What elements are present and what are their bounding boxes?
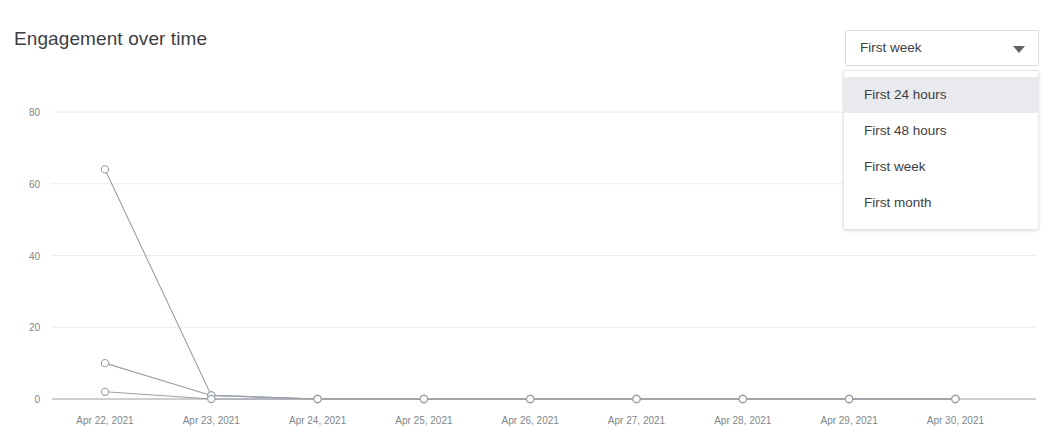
x-tick-label: Apr 26, 2021 (502, 415, 559, 426)
y-tick-label: 60 (6, 178, 40, 189)
series-line (105, 169, 955, 399)
series-line (105, 363, 955, 399)
x-tick-label: Apr 24, 2021 (289, 415, 346, 426)
series-point[interactable] (633, 395, 640, 402)
series-point[interactable] (314, 395, 321, 402)
series-point[interactable] (527, 395, 534, 402)
series-point[interactable] (101, 360, 108, 367)
range-select-value: First week (860, 31, 922, 65)
y-tick-label: 20 (6, 322, 40, 333)
range-select-menu[interactable]: First 24 hoursFirst 48 hoursFirst weekFi… (843, 70, 1039, 230)
x-tick-label: Apr 30, 2021 (927, 415, 984, 426)
x-tick-label: Apr 23, 2021 (183, 415, 240, 426)
range-menu-item[interactable]: First month (844, 185, 1038, 221)
range-menu-item[interactable]: First 24 hours (844, 77, 1038, 113)
x-tick-label: Apr 29, 2021 (820, 415, 877, 426)
range-menu-item[interactable]: First week (844, 149, 1038, 185)
y-tick-label: 40 (6, 250, 40, 261)
y-tick-label: 80 (6, 107, 40, 118)
y-tick-label: 0 (6, 394, 40, 405)
x-tick-label: Apr 22, 2021 (76, 415, 133, 426)
chevron-down-icon (1013, 46, 1025, 53)
x-tick-label: Apr 27, 2021 (608, 415, 665, 426)
series-point[interactable] (739, 395, 746, 402)
series-point[interactable] (101, 388, 108, 395)
series-point[interactable] (420, 395, 427, 402)
x-tick-label: Apr 28, 2021 (714, 415, 771, 426)
series-point[interactable] (952, 395, 959, 402)
range-menu-item[interactable]: First 48 hours (844, 113, 1038, 149)
x-tick-label: Apr 25, 2021 (395, 415, 452, 426)
series-point[interactable] (208, 395, 215, 402)
range-select-button[interactable]: First week (845, 30, 1039, 66)
series-point[interactable] (101, 166, 108, 173)
series-point[interactable] (846, 395, 853, 402)
